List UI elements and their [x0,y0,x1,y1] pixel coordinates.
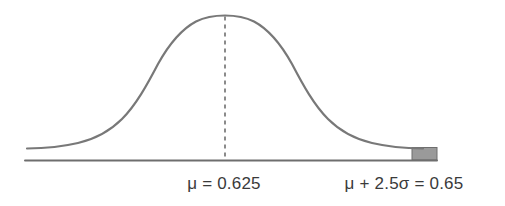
normal-distribution-figure: μ = 0.625 μ + 2.5σ = 0.65 [0,0,505,206]
mean-axis-label: μ = 0.625 [187,175,261,192]
threshold-axis-label: μ + 2.5σ = 0.65 [345,175,464,192]
